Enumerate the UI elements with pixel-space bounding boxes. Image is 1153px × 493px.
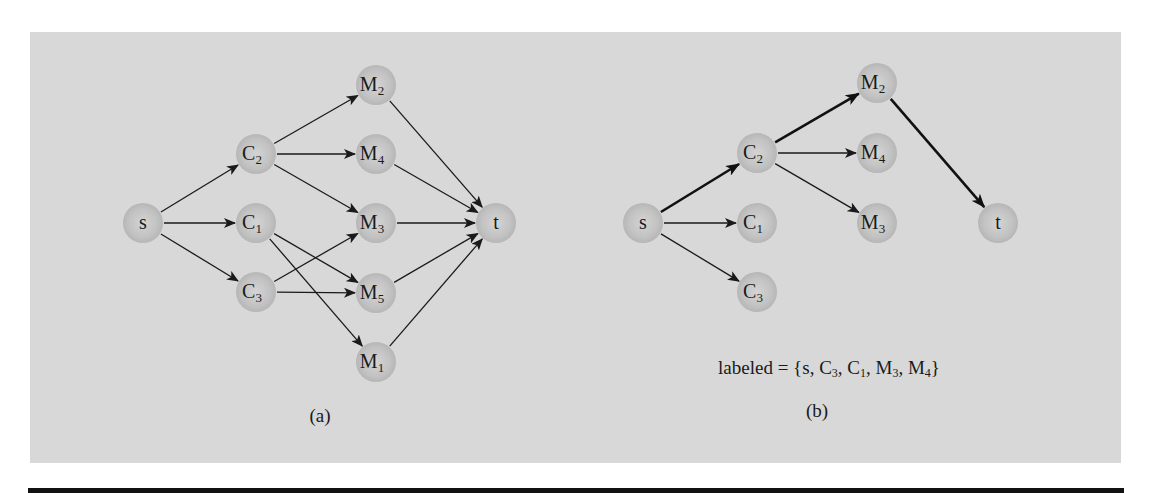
b-node-M4: M4 [857, 133, 897, 173]
labeled-set-text: labeled = {s, C3, C1, M3, M4} [718, 357, 940, 381]
node-label: t [493, 211, 499, 233]
diagram-b-nodes: sC2C1C3M2M4M3t [623, 63, 1018, 312]
b-node-M3: M3 [857, 203, 897, 243]
a-node-M2: M2 [356, 65, 396, 105]
node-label: s [139, 211, 147, 233]
b-edge-C2-to-M2 [775, 94, 859, 143]
b-node-M2: M2 [857, 63, 897, 103]
a-node-M4: M4 [356, 134, 396, 174]
diagram-a-caption: (a) [309, 405, 330, 427]
b-node-s: s [623, 203, 663, 243]
node-label: t [995, 211, 1001, 233]
a-node-C2: C2 [236, 134, 276, 174]
a-edge-s-to-C3 [161, 234, 238, 281]
b-node-t: t [978, 203, 1018, 243]
a-edge-M1-to-t [390, 239, 483, 346]
a-node-M3: M3 [356, 203, 396, 243]
labeled-item: M4 [908, 357, 931, 378]
a-edge-C2-to-M2 [274, 95, 358, 143]
a-node-M1: M1 [356, 342, 396, 382]
labeled-item: C1 [847, 357, 866, 378]
a-edge-M2-to-t [390, 101, 482, 207]
a-node-M5: M5 [356, 273, 396, 313]
b-node-C1: C1 [737, 203, 777, 243]
a-edge-C2-to-M3 [274, 164, 358, 212]
a-node-s: s [123, 203, 163, 243]
b-node-C2: C2 [737, 133, 777, 173]
a-edge-s-to-C2 [161, 165, 238, 212]
labeled-item: M3 [876, 357, 899, 378]
diagram-b-caption: (b) [806, 400, 828, 422]
b-node-C3: C3 [737, 272, 777, 312]
b-edge-s-to-C3 [661, 234, 739, 281]
a-edge-C3-to-M5 [277, 292, 355, 293]
a-node-C3: C3 [236, 272, 276, 312]
diagram-a-edges [161, 95, 482, 346]
diagram-b-network: sC2C1C3M2M4M3t [623, 63, 1018, 312]
flow-network-diagram: sC2C1C3M2M4M3M5M1t sC2C1C3M2M4M3t [0, 0, 1153, 493]
b-edge-s-to-C2 [661, 164, 739, 212]
bottom-rule [28, 488, 1124, 493]
b-edge-C2-to-M3 [775, 164, 859, 213]
diagram-b-edges [661, 94, 984, 282]
a-node-C1: C1 [236, 203, 276, 243]
labeled-item: C3 [819, 357, 838, 378]
node-label: s [639, 211, 647, 233]
diagram-a-network: sC2C1C3M2M4M3M5M1t [123, 65, 516, 382]
a-node-t: t [476, 203, 516, 243]
b-edge-M2-to-t [891, 99, 985, 207]
